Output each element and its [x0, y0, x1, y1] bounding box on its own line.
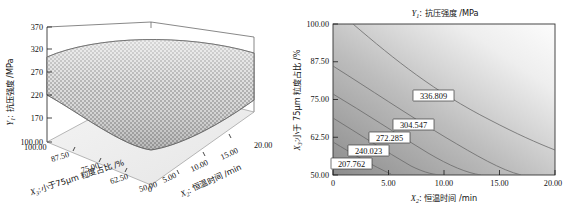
svg-text:X3:小于 75μm 粒度占比 /%: X3:小于 75μm 粒度占比 /% — [292, 49, 303, 151]
x-tick: 5.00 — [381, 179, 395, 188]
x-axis-label: : 恒温时间 /min — [419, 193, 477, 203]
contour-plot-title: Y1: 抗压强度 /MPa — [411, 8, 478, 19]
svg-text:Y1: 抗压强度 /MPa: Y1: 抗压强度 /MPa — [5, 58, 16, 125]
x2-tick: 15.00 — [219, 146, 239, 162]
x2-tick: 0 — [148, 185, 152, 194]
x2-tick: 10.00 — [189, 158, 209, 174]
x-tick: 20.00 — [544, 179, 562, 188]
contour-label-207: 207.762 — [331, 158, 372, 169]
contour-label-240: 240.023 — [348, 145, 389, 156]
contour-label-text: 336.809 — [420, 92, 447, 101]
figure-container: 370 320 270 220 170 100.00 — [0, 0, 571, 210]
z-axis-title: Y1: 抗压强度 /MPa — [5, 58, 16, 125]
y-tick: 75.00 — [311, 95, 329, 104]
z-axis-label: : 抗压强度 /MPa — [5, 58, 15, 117]
contour-label-text: 304.547 — [400, 121, 427, 130]
contour-label-text: 272.285 — [376, 134, 403, 143]
x-tick: 15.00 — [490, 179, 508, 188]
contour-label-272: 272.285 — [369, 132, 410, 143]
surface-plot-svg: 370 320 270 220 170 100.00 — [0, 0, 285, 210]
z-tick: 370 — [31, 23, 43, 32]
y-tick: 100.00 — [306, 20, 329, 29]
x2-axis-title: X2: 恒温时间 /min — [178, 162, 244, 200]
contour-plot-svg: Y1: 抗压强度 /MPa 336.809 304.5 — [285, 0, 571, 210]
z-tick: 270 — [31, 68, 43, 77]
contour-label-304: 304.547 — [393, 119, 434, 130]
contour-label-text: 207.762 — [338, 160, 365, 169]
contour-title-label: : 抗压强度 /MPa — [419, 8, 478, 18]
contour-label-text: 240.023 — [355, 147, 382, 156]
y-axis-label: :小于 75μm 粒度占比 /% — [292, 49, 302, 142]
z-tick: 170 — [31, 114, 43, 123]
contour-plot-panel: Y1: 抗压强度 /MPa 336.809 304.5 — [285, 0, 571, 210]
x-tick: 10.00 — [435, 179, 453, 188]
x3-tick: 62.50 — [109, 172, 129, 186]
y-tick: 50.00 — [311, 171, 329, 180]
surface-plot-panel: 370 320 270 220 170 100.00 — [0, 0, 285, 210]
contour-x-axis-title: X2: 恒温时间 /min — [410, 193, 477, 204]
x3-tick: 87.50 — [50, 150, 70, 164]
contour-y-axis-title: X3:小于 75μm 粒度占比 /% — [292, 49, 303, 151]
y-tick: 87.50 — [311, 57, 329, 66]
y-tick: 62.50 — [311, 133, 329, 142]
z-tick: 320 — [31, 45, 43, 54]
contour-label-336: 336.809 — [413, 90, 454, 101]
x-tick: 0 — [331, 179, 335, 188]
svg-text:X2: 恒温时间 /min: X2: 恒温时间 /min — [178, 162, 244, 200]
z-tick: 220 — [31, 91, 43, 100]
x3-tick: 100.00 — [24, 143, 47, 152]
x2-tick: 20.00 — [254, 141, 272, 150]
